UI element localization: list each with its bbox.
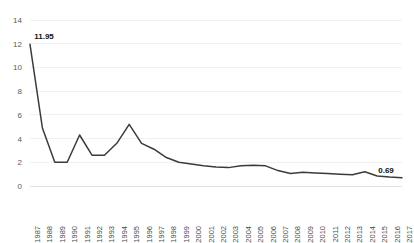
x-tick-label: 1992 [95,226,104,243]
y-tick-label: 14 [13,16,22,25]
data-series [30,20,402,186]
x-tick-label: 2005 [256,226,265,243]
x-tick-label: 2016 [393,226,402,243]
y-tick-label: 2 [18,158,22,167]
x-tick-label: 1989 [58,226,67,243]
x-tick-label: 1988 [45,226,54,243]
x-tick-label: 2002 [219,226,228,243]
x-tick-label: 1999 [182,226,191,243]
x-tick-label: 2017 [405,226,414,243]
y-tick-label: 0 [18,182,22,191]
x-tick-label: 2012 [343,226,352,243]
x-tick-label: 2015 [380,226,389,243]
x-tick-label: 1987 [33,226,42,243]
x-tick-label: 2006 [269,226,278,243]
x-tick-label: 1996 [145,226,154,243]
x-tick-label: 1998 [169,226,178,243]
x-tick-label: 2011 [331,226,340,242]
x-tick-label: 1990 [70,226,79,243]
x-tick-label: 2001 [207,226,216,243]
x-tick-label: 2010 [318,226,327,243]
first-point-label: 11.95 [34,32,54,41]
x-axis: 1987198819891990199119921993199419951996… [30,188,402,230]
series-line [30,44,402,178]
x-tick-label: 2013 [355,226,364,243]
x-tick-label: 1997 [157,226,166,243]
x-tick-label: 2004 [244,226,253,243]
x-tick-label: 2009 [306,226,315,243]
last-point-label: 0.69 [378,166,394,175]
y-tick-label: 6 [18,110,22,119]
x-tick-label: 2014 [368,226,377,243]
x-tick-label: 2003 [231,226,240,243]
y-tick-label: 12 [13,39,22,48]
x-tick-label: 1994 [120,226,129,243]
x-tick-label: 1991 [83,226,92,243]
x-tick-label: 2008 [293,226,302,243]
y-tick-label: 10 [13,63,22,72]
y-tick-label: 8 [18,87,22,96]
x-tick-label: 2007 [281,226,290,243]
x-tick-label: 1993 [107,226,116,243]
y-tick-label: 4 [18,134,22,143]
plot-area [30,20,402,186]
x-tick-label: 1995 [132,226,141,243]
y-axis: 02468101214 [0,20,26,186]
x-tick-label: 2000 [194,226,203,243]
